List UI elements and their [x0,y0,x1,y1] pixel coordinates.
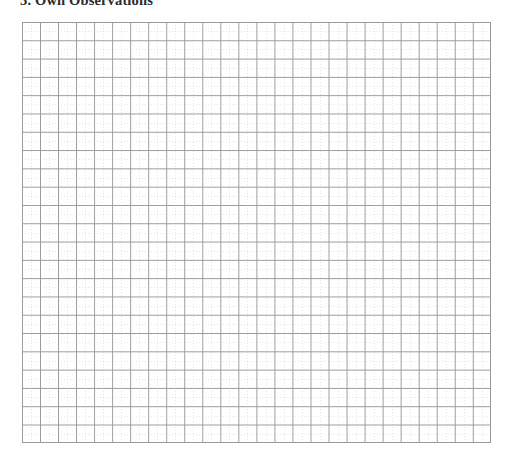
page-title: 3. Own Observations [20,0,153,7]
heading-clip-region: 3. Own Observations [0,0,513,7]
graph-paper-grid[interactable] [22,22,491,443]
grid-minor-lines [22,22,491,443]
document-page: 3. Own Observations [0,0,513,469]
paper-tone-overlay [22,22,491,443]
